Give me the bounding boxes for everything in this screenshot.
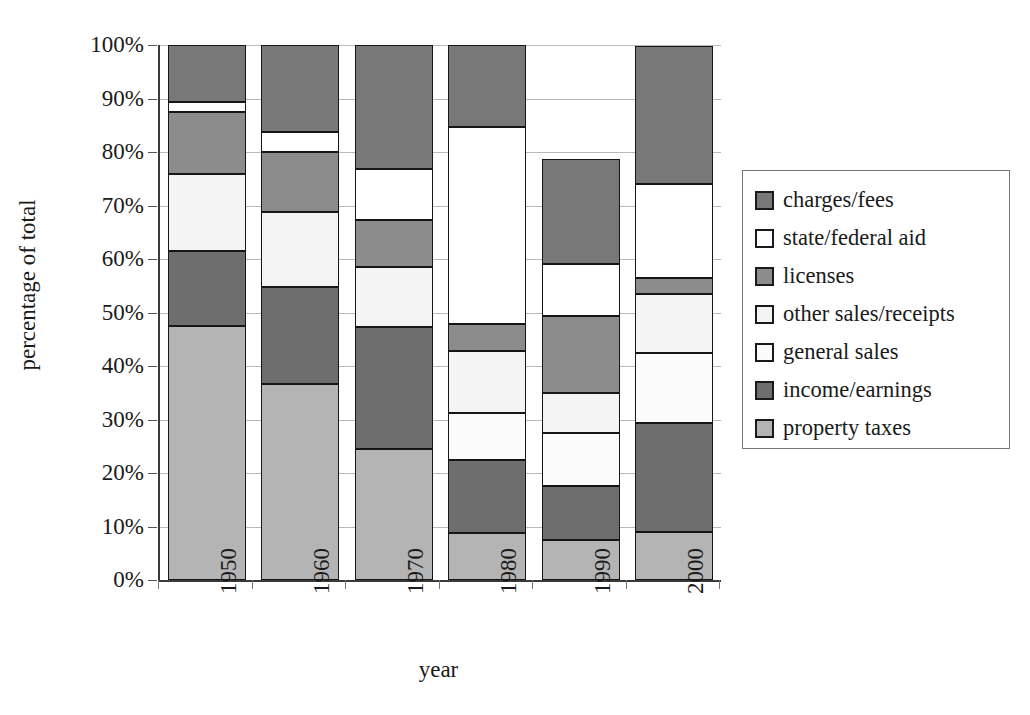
bar-2000[interactable] [635,45,713,580]
y-axis-title: percentage of total [15,175,41,395]
bar-segment-other-sales-receipts[interactable] [448,351,526,413]
y-axis-tick-label: 80% [58,140,144,163]
legend-item-charges-fees[interactable]: charges/fees [755,181,1009,219]
legend-label: charges/fees [783,189,894,212]
legend-item-state-federal-aid[interactable]: state/federal aid [755,219,1009,257]
bar-segment-state-federal-aid[interactable] [355,169,433,220]
legend-swatch-icon [755,229,774,248]
plot-inner [160,45,721,580]
x-axis-tick-label: 1960 [309,548,335,594]
y-axis-tick-label: 10% [58,515,144,538]
bar-segment-licenses[interactable] [168,112,246,175]
bar-segment-charges-fees[interactable] [261,45,339,132]
y-axis-tick-mark [148,259,157,260]
legend-label: other sales/receipts [783,303,955,326]
bar-1950[interactable] [168,45,246,580]
y-axis-tick-labels: 0%10%20%30%40%50%60%70%80%90%100% [58,0,144,715]
legend-label: state/federal aid [783,227,926,250]
bar-1990[interactable] [542,45,620,580]
legend-item-income-earnings[interactable]: income/earnings [755,371,1009,409]
bar-segment-state-federal-aid[interactable] [542,264,620,316]
bar-segment-other-sales-receipts[interactable] [635,294,713,353]
bar-segment-income-earnings[interactable] [168,251,246,326]
bar-segment-income-earnings[interactable] [635,423,713,532]
bar-segment-income-earnings[interactable] [261,287,339,383]
y-axis-tick-label: 0% [58,568,144,591]
bar-segment-licenses[interactable] [542,316,620,393]
stacked-bar-chart: percentage of total 0%10%20%30%40%50%60%… [0,0,1030,715]
y-axis-tick-mark [148,206,157,207]
y-axis-tick-mark [148,473,157,474]
legend-label: property taxes [783,417,911,440]
y-axis-tick-mark [148,313,157,314]
y-axis-tick-label: 70% [58,194,144,217]
legend-swatch-icon [755,381,774,400]
bar-segment-charges-fees[interactable] [355,45,433,169]
legend-label: licenses [783,265,854,288]
bar-segment-licenses[interactable] [355,220,433,267]
bar-segment-general-sales[interactable] [448,413,526,461]
x-axis-tick-mark [719,580,720,589]
y-axis-tick-mark [148,99,157,100]
bar-segment-state-federal-aid[interactable] [168,102,246,112]
x-axis-title: year [158,657,719,683]
x-axis-tick-label: 1990 [590,548,616,594]
bar-segment-state-federal-aid[interactable] [448,127,526,324]
bar-segment-income-earnings[interactable] [355,327,433,449]
legend-swatch-icon [755,191,774,210]
bar-segment-charges-fees[interactable] [542,159,620,263]
y-axis-tick-mark [148,152,157,153]
legend-label: general sales [783,341,899,364]
y-axis-tick-mark [148,366,157,367]
y-axis-tick-mark [148,527,157,528]
bar-segment-property-taxes[interactable] [168,326,246,580]
chart-legend: charges/feesstate/federal aidlicensesoth… [742,170,1010,449]
bar-segment-income-earnings[interactable] [542,486,620,541]
x-axis-tick-mark [439,580,440,589]
bar-segment-other-sales-receipts[interactable] [355,267,433,327]
x-axis-tick-mark [345,580,346,589]
bar-segment-charges-fees[interactable] [168,45,246,102]
bar-segment-licenses[interactable] [635,278,713,294]
bar-segment-charges-fees[interactable] [635,46,713,184]
legend-swatch-icon [755,343,774,362]
x-axis-tick-mark [158,580,159,589]
y-axis-tick-mark [148,45,157,46]
bar-1960[interactable] [261,45,339,580]
x-axis-line [158,580,721,582]
x-axis-tick-label: 2000 [683,548,709,594]
legend-item-licenses[interactable]: licenses [755,257,1009,295]
legend-item-other-sales-receipts[interactable]: other sales/receipts [755,295,1009,333]
y-axis-tick-label: 90% [58,87,144,110]
bar-segment-general-sales[interactable] [635,353,713,424]
y-axis-tick-mark [148,420,157,421]
x-axis-tick-mark [252,580,253,589]
x-axis-tick-mark [532,580,533,589]
y-axis-tick-label: 50% [58,301,144,324]
x-axis-tick-label: 1980 [496,548,522,594]
y-axis-tick-label: 30% [58,408,144,431]
y-axis-tick-label: 100% [58,33,144,56]
bar-segment-other-sales-receipts[interactable] [261,212,339,287]
bar-segment-charges-fees[interactable] [448,45,526,127]
legend-swatch-icon [755,419,774,438]
bar-segment-licenses[interactable] [448,324,526,351]
legend-item-property-taxes[interactable]: property taxes [755,409,1009,447]
bar-segment-state-federal-aid[interactable] [261,132,339,152]
y-axis-tick-label: 60% [58,247,144,270]
bar-segment-income-earnings[interactable] [448,460,526,533]
bar-segment-other-sales-receipts[interactable] [168,174,246,251]
bar-1970[interactable] [355,45,433,580]
y-axis-tick-label: 20% [58,461,144,484]
y-axis-tick-label: 40% [58,354,144,377]
x-axis-tick-label: 1970 [403,548,429,594]
bar-segment-licenses[interactable] [261,152,339,212]
bar-segment-state-federal-aid[interactable] [635,184,713,278]
legend-swatch-icon [755,305,774,324]
legend-item-general-sales[interactable]: general sales [755,333,1009,371]
bar-segment-other-sales-receipts[interactable] [542,393,620,434]
bar-1980[interactable] [448,45,526,580]
x-axis-tick-label: 1950 [216,548,242,594]
x-axis-tick-mark [626,580,627,589]
bar-segment-general-sales[interactable] [542,433,620,485]
